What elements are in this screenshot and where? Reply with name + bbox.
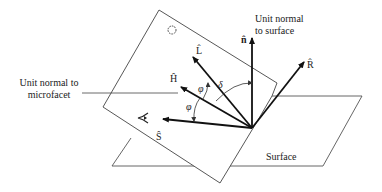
label-vector-l: L̂ <box>196 45 202 56</box>
label-unit-normal-surface-2: to surface <box>255 25 294 36</box>
label-unit-normal-microfacet-1: Unit normal to <box>14 77 84 88</box>
label-surface: Surface <box>266 151 297 162</box>
label-phi-lower: φ <box>186 101 192 112</box>
label-phi-upper: φ <box>198 83 204 94</box>
microfacet-plane <box>103 10 277 183</box>
label-delta: δ <box>218 79 223 90</box>
label-vector-s: Ŝ <box>156 131 162 142</box>
label-unit-normal-microfacet-2: microfacet <box>14 89 84 100</box>
microfacet-diagram: Unit normal to surface Unit normal to mi… <box>0 0 382 192</box>
label-unit-normal-surface-1: Unit normal <box>255 13 304 24</box>
label-vector-n: n̂ <box>241 34 247 45</box>
label-vector-r: R̂ <box>307 59 314 70</box>
label-vector-h: Ĥ <box>170 73 177 84</box>
